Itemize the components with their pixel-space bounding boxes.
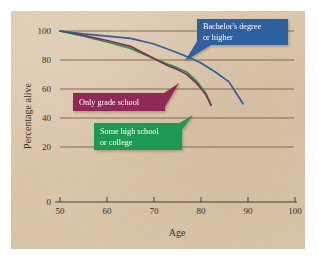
x-tick-label-90: 90 — [244, 206, 254, 216]
x-tick-label-100: 100 — [288, 206, 302, 216]
callout-high-school-line1: Some high school — [100, 127, 159, 136]
callout-high-school-line2: or college — [100, 138, 133, 147]
x-tick-label-50: 50 — [56, 206, 66, 216]
y-tick-label-0: 0 — [47, 197, 52, 207]
y-axis-title: Percentage alive — [22, 83, 33, 149]
y-tick-label-20: 20 — [42, 142, 52, 152]
callout-grade-school-line1: Only grade school — [79, 98, 140, 107]
callout-bachelors-line1: Bachelor's degree — [203, 22, 261, 31]
chart-panel: 100 80 60 40 20 0 50 60 70 80 90 100 Age… — [11, 11, 305, 249]
x-tick-label-80: 80 — [197, 206, 207, 216]
x-axis-title: Age — [169, 227, 186, 238]
line-chart: 100 80 60 40 20 0 50 60 70 80 90 100 Age… — [11, 11, 305, 249]
y-tick-label-100: 100 — [38, 26, 52, 36]
y-tick-label-80: 80 — [42, 55, 52, 65]
y-tick-label-40: 40 — [42, 113, 52, 123]
chart-screenshot: 100 80 60 40 20 0 50 60 70 80 90 100 Age… — [0, 0, 319, 269]
callout-bachelors-line2: or higher — [203, 33, 233, 42]
x-tick-label-60: 60 — [103, 206, 113, 216]
x-tick-label-70: 70 — [150, 206, 160, 216]
y-tick-label-60: 60 — [42, 84, 52, 94]
